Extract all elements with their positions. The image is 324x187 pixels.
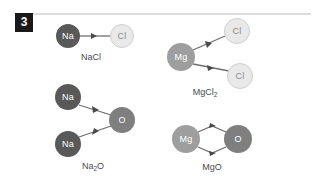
bond-mgo-top: [198, 123, 226, 132]
atom-mg-mgo: Mg: [172, 125, 200, 153]
bond-mgcl2-lower: [193, 64, 229, 71]
atom-symbol: Cl: [118, 31, 127, 41]
molecule-label-mgcl2: MgCl2: [175, 87, 235, 97]
atom-na-nacl: Na: [56, 24, 80, 48]
atom-symbol: Mg: [180, 134, 193, 144]
atom-cl-nacl: Cl: [110, 24, 134, 48]
formula-base: Cl: [205, 87, 214, 97]
atom-symbol: O: [118, 115, 125, 125]
atom-symbol: Na: [62, 92, 74, 102]
atom-o-mgo: O: [224, 125, 252, 153]
atom-symbol: O: [234, 134, 241, 144]
atom-symbol: Na: [62, 31, 74, 41]
bond-na2o-lower: [79, 126, 111, 137]
formula-text: NaCl: [81, 52, 101, 62]
atom-cl-mgcl2-upper: Cl: [224, 18, 250, 44]
bond-na2o-upper: [79, 105, 111, 115]
formula-subscript: 2: [93, 165, 97, 172]
bond-mgcl2-upper: [193, 36, 225, 50]
atom-o-na2o: O: [109, 107, 135, 133]
atom-symbol: Mg: [175, 52, 188, 62]
bond-lines-layer: [0, 0, 324, 187]
molecule-label-na2o: Na2O: [63, 161, 123, 171]
formula-base: O: [97, 161, 104, 171]
figure-container: 3: [0, 0, 324, 187]
molecule-label-mgo: MgO: [182, 162, 242, 172]
bond-nacl: [80, 33, 110, 39]
molecule-label-nacl: NaCl: [61, 52, 121, 62]
atom-na-na2o-upper: Na: [55, 84, 81, 110]
atom-symbol: Cl: [236, 71, 245, 81]
formula-text: MgO: [202, 162, 222, 172]
atom-na-na2o-lower: Na: [55, 131, 81, 157]
atom-symbol: Cl: [233, 26, 242, 36]
bond-mgo-bottom: [198, 147, 226, 156]
atom-cl-mgcl2-lower: Cl: [227, 63, 253, 89]
formula-subscript: 2: [214, 91, 218, 98]
atom-mg-mgcl2: Mg: [167, 43, 195, 71]
atom-symbol: Na: [62, 139, 74, 149]
